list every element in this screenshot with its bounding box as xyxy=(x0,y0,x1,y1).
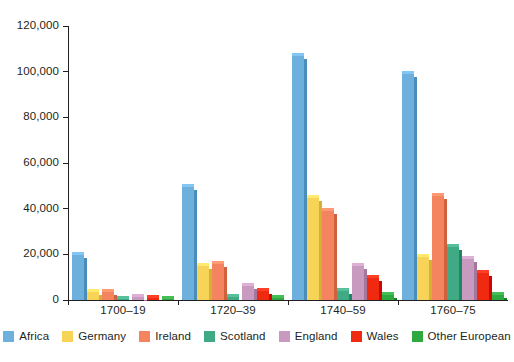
bar-slot xyxy=(197,26,212,300)
bar-germany[interactable] xyxy=(197,266,209,300)
bar-front-face xyxy=(117,299,129,300)
legend-swatch-icon xyxy=(351,331,362,342)
bar-africa[interactable] xyxy=(72,255,84,300)
bar-front-face xyxy=(162,299,174,300)
bar-top-face xyxy=(132,294,144,297)
bar-scotland[interactable] xyxy=(337,291,349,300)
bar-germany[interactable] xyxy=(307,198,319,300)
bar-cluster xyxy=(398,26,508,300)
bar-other-european[interactable] xyxy=(492,295,504,300)
bar-slot xyxy=(382,26,397,300)
bar-front-face xyxy=(257,291,269,300)
bar-ireland[interactable] xyxy=(102,292,114,300)
bar-front-face xyxy=(492,295,504,300)
bar-scotland[interactable] xyxy=(227,297,239,300)
bar-slot xyxy=(367,26,382,300)
bar-group: 1760–75 xyxy=(398,26,508,300)
bar-england[interactable] xyxy=(462,259,474,300)
bar-slot xyxy=(292,26,307,300)
x-axis-label: 1760–75 xyxy=(398,304,508,316)
bar-front-face xyxy=(147,298,159,300)
legend-swatch-icon xyxy=(62,331,73,342)
bar-england[interactable] xyxy=(132,297,144,300)
bar-front-face xyxy=(402,74,414,300)
bar-front-face xyxy=(102,292,114,300)
bar-slot xyxy=(162,26,177,300)
legend-label: England xyxy=(295,330,338,342)
bar-ireland[interactable] xyxy=(212,264,224,300)
bar-africa[interactable] xyxy=(182,187,194,300)
bar-other-european[interactable] xyxy=(272,298,284,300)
bar-other-european[interactable] xyxy=(382,295,394,300)
legend-label: Africa xyxy=(19,330,49,342)
legend-label: Ireland xyxy=(155,330,191,342)
bar-top-face xyxy=(227,294,239,297)
bar-england[interactable] xyxy=(242,286,254,300)
bar-top-face xyxy=(402,71,414,74)
bar-wales[interactable] xyxy=(147,298,159,300)
y-tick-label: 80,000 xyxy=(23,109,59,124)
legend-item-africa[interactable]: Africa xyxy=(3,330,49,342)
bar-front-face xyxy=(337,291,349,300)
bar-germany[interactable] xyxy=(417,257,429,300)
y-tick-label: 100,000 xyxy=(17,64,59,79)
y-tick-label: 40,000 xyxy=(23,201,59,216)
x-axis-label: 1700–19 xyxy=(68,304,178,316)
bar-cluster xyxy=(178,26,288,300)
bar-top-face xyxy=(447,244,459,247)
bar-front-face xyxy=(477,273,489,300)
bar-top-face xyxy=(72,252,84,255)
bar-top-face xyxy=(417,254,429,257)
bar-front-face xyxy=(212,264,224,300)
bar-front-face xyxy=(132,297,144,300)
legend-item-wales[interactable]: Wales xyxy=(351,330,399,342)
bar-top-face xyxy=(432,193,444,196)
bar-side-face xyxy=(394,298,397,300)
bar-top-face xyxy=(87,289,99,292)
bar-front-face xyxy=(87,292,99,300)
legend-swatch-icon xyxy=(279,331,290,342)
bar-other-european[interactable] xyxy=(162,299,174,300)
bar-top-face xyxy=(242,283,254,286)
bar-slot xyxy=(337,26,352,300)
bar-top-face xyxy=(197,263,209,266)
legend-item-germany[interactable]: Germany xyxy=(62,330,126,342)
bar-ireland[interactable] xyxy=(432,196,444,300)
bar-top-face xyxy=(117,296,129,299)
bar-slot xyxy=(212,26,227,300)
bar-slot xyxy=(117,26,132,300)
bar-slot xyxy=(447,26,462,300)
bar-top-face xyxy=(272,295,284,298)
bar-slot xyxy=(322,26,337,300)
legend-item-england[interactable]: England xyxy=(279,330,338,342)
bar-slot xyxy=(147,26,162,300)
bar-group: 1740–59 xyxy=(288,26,398,300)
legend-item-other-european[interactable]: Other European xyxy=(412,330,511,342)
legend-label: Wales xyxy=(367,330,399,342)
legend-item-ireland[interactable]: Ireland xyxy=(139,330,191,342)
bar-england[interactable] xyxy=(352,266,364,300)
bar-slot xyxy=(402,26,417,300)
bar-wales[interactable] xyxy=(367,278,379,300)
bar-ireland[interactable] xyxy=(322,211,334,300)
bar-slot xyxy=(182,26,197,300)
bar-front-face xyxy=(182,187,194,300)
bar-scotland[interactable] xyxy=(117,299,129,300)
bar-front-face xyxy=(417,257,429,300)
bar-top-face xyxy=(477,270,489,273)
bar-wales[interactable] xyxy=(477,273,489,300)
bar-germany[interactable] xyxy=(87,292,99,300)
bar-wales[interactable] xyxy=(257,291,269,300)
legend-item-scotland[interactable]: Scotland xyxy=(204,330,266,342)
bar-top-face xyxy=(162,296,174,299)
bar-slot xyxy=(307,26,322,300)
legend-label: Scotland xyxy=(220,330,266,342)
bar-scotland[interactable] xyxy=(447,247,459,300)
bar-top-face xyxy=(102,289,114,292)
bar-slot xyxy=(242,26,257,300)
bar-top-face xyxy=(337,288,349,291)
bar-africa[interactable] xyxy=(292,56,304,300)
y-tick-label: 120,000 xyxy=(17,18,59,33)
bar-africa[interactable] xyxy=(402,74,414,300)
bar-slot xyxy=(257,26,272,300)
